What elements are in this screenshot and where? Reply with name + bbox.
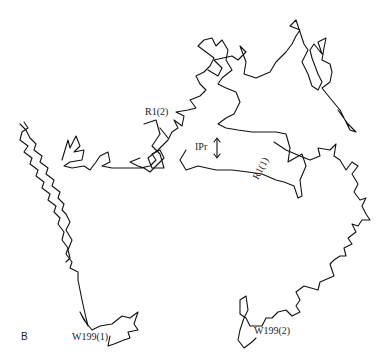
trace-left-cluster bbox=[62, 136, 164, 172]
label-r1-2: R1(2) bbox=[145, 106, 168, 117]
trace-top-strands bbox=[208, 20, 356, 132]
trace-left-strand bbox=[20, 122, 138, 346]
trace-left-strand-2 bbox=[20, 124, 72, 262]
panel-label: B bbox=[21, 331, 28, 342]
r1-2-pointer bbox=[160, 128, 168, 138]
label-w199-1: W199(1) bbox=[72, 331, 108, 342]
label-w199-2: W199(2) bbox=[254, 325, 290, 336]
label-ipr: IPr bbox=[195, 141, 207, 152]
trace-central-knot bbox=[144, 38, 306, 198]
backbone-trace-diagram bbox=[0, 0, 381, 361]
